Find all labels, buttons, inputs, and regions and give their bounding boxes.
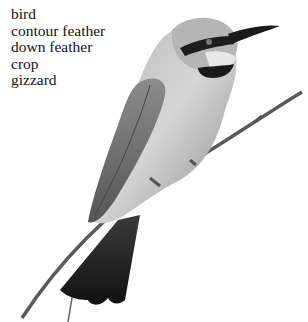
bird-beak	[228, 25, 280, 44]
bird-tail	[60, 215, 140, 305]
bird-eye	[206, 39, 212, 45]
bird-photo	[0, 0, 308, 322]
